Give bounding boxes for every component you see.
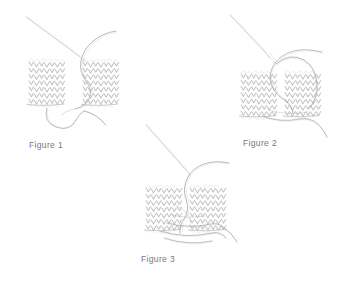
working-yarn-strand — [180, 162, 230, 233]
knitting-needle — [146, 124, 190, 176]
figure-3-caption: Figure 3 — [141, 254, 175, 264]
knitting-needle — [26, 16, 86, 62]
figure-2-illustration — [230, 14, 327, 137]
needle-tip-crossing — [267, 53, 276, 63]
knitting-needle — [230, 14, 270, 58]
figure-1-caption: Figure 1 — [29, 140, 63, 150]
yarn-loop-below-edge — [46, 108, 106, 128]
figure-2-caption: Figure 2 — [243, 138, 277, 148]
knit-stitch-block-left — [28, 59, 65, 108]
knit-stitch-block-left — [240, 71, 277, 120]
figure-3-illustration — [145, 124, 238, 244]
working-yarn-strand — [61, 31, 118, 116]
knit-stitch-block-left — [145, 185, 182, 234]
figure-1-illustration — [26, 16, 119, 128]
yarn-wraps-at-fabric-base — [160, 205, 237, 244]
